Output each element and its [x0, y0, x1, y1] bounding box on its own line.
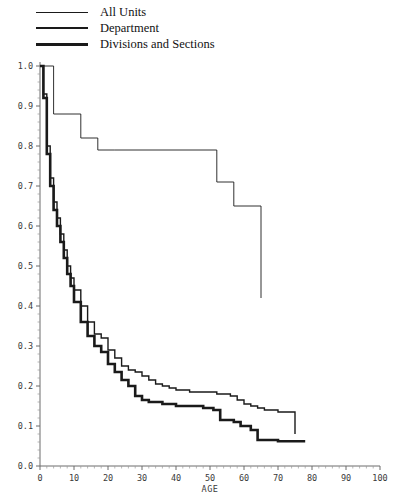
y-axis-tick-label: 0.8: [18, 141, 33, 151]
y-axis-tick-label: 0.2: [18, 381, 33, 391]
y-axis-tick-label: 0.5: [18, 261, 33, 271]
x-axis: 0102030405060708090100: [37, 466, 387, 483]
y-axis-tick-label: 0.9: [18, 101, 33, 111]
x-axis-tick-label: 60: [239, 473, 249, 483]
plot-area: 0.00.10.20.30.40.50.60.70.80.91.0 010203…: [0, 0, 414, 504]
chart-svg: 0.00.10.20.30.40.50.60.70.80.91.0 010203…: [0, 0, 414, 504]
x-axis-tick-label: 40: [171, 473, 181, 483]
chart-root: All Units Department Divisions and Secti…: [0, 0, 414, 504]
y-axis-tick-label: 1.0: [18, 61, 33, 71]
y-axis: 0.00.10.20.30.40.50.60.70.80.91.0: [18, 61, 40, 471]
y-axis-tick-label: 0.7: [18, 181, 33, 191]
x-axis-tick-label: 100: [372, 473, 387, 483]
y-axis-tick-label: 0.0: [18, 461, 33, 471]
series-layer: [40, 66, 305, 441]
x-axis-title: AGE: [202, 484, 219, 494]
x-axis-tick-label: 0: [37, 473, 42, 483]
x-axis-tick-label: 50: [205, 473, 215, 483]
x-axis-tick-label: 10: [69, 473, 79, 483]
series-line-all-units: [40, 66, 261, 298]
x-axis-tick-label: 20: [103, 473, 113, 483]
x-axis-tick-label: 80: [307, 473, 317, 483]
x-axis-tick-label: 70: [273, 473, 283, 483]
series-line-divisions-and-sections: [40, 66, 305, 441]
y-axis-tick-label: 0.3: [18, 341, 33, 351]
y-axis-tick-label: 0.6: [18, 221, 33, 231]
x-axis-tick-label: 90: [341, 473, 351, 483]
x-axis-tick-label: 30: [137, 473, 147, 483]
series-line-department: [40, 66, 295, 434]
y-axis-tick-label: 0.4: [18, 301, 33, 311]
y-axis-tick-label: 0.1: [18, 421, 33, 431]
